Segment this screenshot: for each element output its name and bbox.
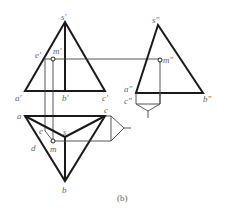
label-s-prime: s′ [61, 12, 68, 22]
label-c-double-prime: c″ [124, 96, 132, 106]
label-a-prime: a′ [15, 93, 23, 103]
point-m [51, 139, 55, 143]
top-view-construction-arrow [111, 116, 124, 141]
point-m-double-prime [158, 58, 162, 62]
top-view: a c e s d m b [17, 105, 131, 195]
label-m-double-prime: m″ [163, 55, 173, 65]
label-d: d [31, 143, 36, 153]
label-b: b [62, 185, 67, 195]
label-m-prime: m′ [53, 46, 62, 56]
label-e-prime: e′ [35, 50, 42, 60]
three-view-projection-diagram: s′ e′ m′ a′ b′ c′ s″ m″ a″ c″ b″ a c e [0, 0, 227, 214]
label-e: e [39, 126, 43, 136]
side-view: s″ m″ a″ c″ b″ [124, 15, 212, 118]
label-c: c [104, 105, 108, 115]
point-m-prime [51, 57, 55, 61]
label-s: s [63, 127, 67, 137]
label-s-double-prime: s″ [152, 15, 160, 25]
label-m: m [50, 144, 57, 154]
label-a-double-prime: a″ [124, 84, 133, 94]
label-c-prime: c′ [102, 93, 109, 103]
side-view-construction-shape [136, 93, 160, 111]
figure-caption: (b) [117, 193, 128, 203]
label-b-prime: b′ [62, 93, 70, 103]
label-b-double-prime: b″ [203, 94, 212, 104]
label-a: a [17, 111, 22, 121]
